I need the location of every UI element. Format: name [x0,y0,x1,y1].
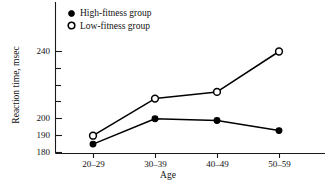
data-point-high-fitness-20-29 [90,141,96,147]
series-line-low-fitness [93,52,279,136]
x-tick-label-30-39: 30–39 [125,160,186,169]
data-point-low-fitness-50-59 [276,48,283,55]
x-tick-label-40-49: 40–49 [187,160,248,169]
x-tick-label-20-29: 20–29 [63,160,124,169]
x-tick-label-50-59: 50–59 [249,160,310,169]
legend-label-high-fitness: High-fitness group [80,7,152,20]
data-point-high-fitness-30-39 [152,116,158,122]
data-point-low-fitness-20-29 [90,132,97,139]
data-point-high-fitness-40-49 [214,118,220,124]
x-axis-title: Age [0,170,336,180]
legend-label-low-fitness: Low-fitness group [80,20,150,33]
legend-item-low-fitness: Low-fitness group [66,20,152,33]
filled-circle-icon [66,8,77,19]
data-point-low-fitness-30-39 [152,95,159,102]
y-axis-title: Reaction time, msec [11,30,21,140]
chart-legend: High-fitness group Low-fitness group [66,7,152,32]
y-tick-label-180: 180 [10,148,50,157]
open-circle-icon [66,20,77,31]
legend-item-high-fitness: High-fitness group [66,7,152,20]
series-line-high-fitness [93,119,279,144]
reaction-time-line-chart: 240 200 190 180 20–29 30–39 40–49 50–59 … [0,0,336,187]
data-point-low-fitness-40-49 [214,89,221,96]
data-point-high-fitness-50-59 [276,128,282,134]
